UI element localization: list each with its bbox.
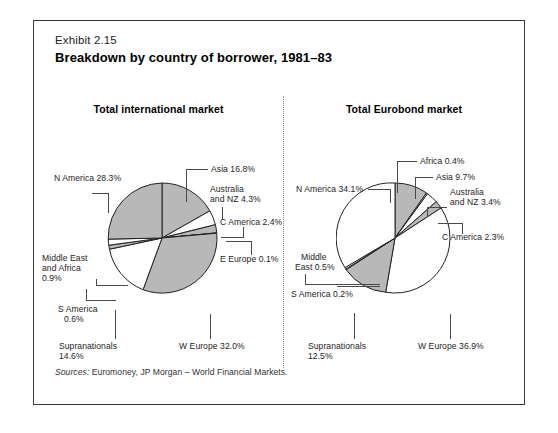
leader-asia-left xyxy=(186,169,187,202)
label-supranationals-right-line2: 12.5% xyxy=(308,351,333,361)
leader-c-america-left xyxy=(221,237,243,238)
label-n-america-right: N America 34.1% xyxy=(296,184,363,194)
leader-n-america-left xyxy=(108,193,109,213)
label-australia-right-line1: Australia xyxy=(450,187,484,197)
leader-middle-east-left-v xyxy=(96,279,97,286)
label-supranationals-right-line1: Supranationals xyxy=(308,341,366,351)
leader-asia-left-h xyxy=(186,169,208,170)
chart-panel-eurobond: Total Eurobond market xyxy=(284,21,524,404)
label-supranationals-left-line1: Supranationals xyxy=(59,341,117,351)
pie-chart-international xyxy=(103,179,221,301)
leader-supranationals-right xyxy=(354,313,355,339)
label-asia-right: Asia 9.7% xyxy=(436,172,475,182)
pie-chart-eurobond xyxy=(336,179,454,301)
label-africa-right: Africa 0.4% xyxy=(420,156,465,166)
leader-e-europe-left xyxy=(226,241,251,242)
leader-middle-east-right-v xyxy=(305,274,306,285)
sources-value: Euromoney, JP Morgan – World Financial M… xyxy=(89,367,287,377)
label-c-america-left: C America 2.4% xyxy=(220,217,282,227)
leader-supranationals-left xyxy=(115,310,116,339)
label-w-europe-left: W Europe 32.0% xyxy=(179,341,245,351)
label-c-america-right: C America 2.3% xyxy=(442,232,504,242)
sources-label: Sources: xyxy=(55,367,89,377)
label-asia-left: Asia 16.8% xyxy=(211,164,255,174)
leader-s-america-left xyxy=(86,300,116,301)
sources-note: Sources: Euromoney, JP Morgan – World Fi… xyxy=(55,367,288,377)
chart-title-eurobond: Total Eurobond market xyxy=(284,103,524,115)
label-middle-east-left-line2: and Africa xyxy=(42,263,81,273)
leader-n-america-right xyxy=(368,189,390,190)
label-w-europe-right: W Europe 36.9% xyxy=(418,341,484,351)
chart-panel-international: Total international market xyxy=(34,21,283,404)
label-s-america-right: S America 0.2% xyxy=(291,289,353,299)
leader-w-europe-left xyxy=(210,314,211,339)
leader-w-europe-right xyxy=(450,314,451,339)
pie-slice-n-america xyxy=(108,183,162,239)
leader-e-europe-left-v xyxy=(251,241,252,255)
leader-n-america-right-v xyxy=(390,189,391,203)
label-s-america-left-line2: 0.6% xyxy=(64,314,84,324)
leader-asia-right-h xyxy=(415,177,433,178)
label-s-america-left-line1: S America xyxy=(58,304,98,314)
label-middle-east-right-line2: East 0.5% xyxy=(295,262,335,272)
leader-middle-east-right xyxy=(305,284,380,285)
leader-australia-right-v xyxy=(427,207,428,217)
label-australia-left-line1: Australia xyxy=(210,184,244,194)
label-middle-east-left-line3: 0.9% xyxy=(42,273,62,283)
leader-africa-right xyxy=(397,161,398,193)
leader-c-america-right xyxy=(438,223,462,224)
leader-middle-east-left xyxy=(96,285,128,286)
leader-australia-right xyxy=(427,207,447,208)
label-middle-east-left-line1: Middle East xyxy=(42,253,87,263)
label-n-america-left: N America 28.3% xyxy=(54,173,121,183)
chart-title-international: Total international market xyxy=(34,103,283,115)
leader-n-america-left-h xyxy=(92,193,109,194)
leader-s-america-right xyxy=(337,286,380,287)
leader-asia-right xyxy=(415,177,416,199)
label-australia-right-line2: and NZ 3.4% xyxy=(450,197,501,207)
leader-africa-right-h xyxy=(397,161,417,162)
label-supranationals-left-line2: 14.6% xyxy=(59,351,84,361)
label-australia-left-line2: and NZ 4.3% xyxy=(210,194,261,204)
leader-s-america-left-v xyxy=(86,289,87,301)
leader-c-america-left-v xyxy=(243,227,244,238)
label-e-europe-left: E Europe 0.1% xyxy=(220,254,278,264)
label-middle-east-right-line1: Middle xyxy=(301,252,327,262)
exhibit-frame: Exhibit 2.15 Breakdown by country of bor… xyxy=(33,20,525,405)
